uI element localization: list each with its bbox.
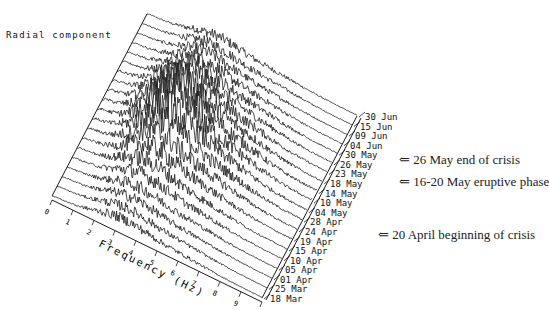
date-label: 26 May xyxy=(340,160,373,170)
date-label: 18 Mar xyxy=(270,294,303,304)
date-label: 14 May xyxy=(325,189,358,199)
annotation-beginning-of-crisis: ⇐ 20 April beginning of crisis xyxy=(378,227,535,243)
chart-title: Radial component xyxy=(6,30,112,40)
date-label: 15 Apr xyxy=(295,246,328,256)
date-label: 10 May xyxy=(320,198,353,208)
date-label: 01 Apr xyxy=(280,275,313,285)
annotation-end-of-crisis: ⇐ 26 May end of crisis xyxy=(399,152,520,168)
frequency-tick-label: 8 xyxy=(211,289,218,298)
date-label: 04 Jun xyxy=(350,141,383,151)
date-label: 30 May xyxy=(345,150,378,160)
frequency-tick-label: 2 xyxy=(85,228,92,237)
frequency-tick-label: 9 xyxy=(232,299,239,308)
date-label: 18 May xyxy=(330,179,363,189)
date-label: 23 May xyxy=(335,169,368,179)
date-label: 09 Jun xyxy=(355,131,388,141)
annotation-eruptive-phase: ⇐ 16-20 May eruptive phase xyxy=(399,174,549,190)
date-label: 05 Apr xyxy=(285,265,318,275)
date-label: 28 Apr xyxy=(310,217,343,227)
date-label: 04 May xyxy=(315,208,348,218)
date-label: 15 Jun xyxy=(360,122,393,132)
date-label: 10 Apr xyxy=(290,256,323,266)
date-label: 19 Apr xyxy=(300,237,333,247)
frequency-tick-label: 1 xyxy=(64,218,71,227)
date-label: 24 Apr xyxy=(305,227,338,237)
date-label: 25 Mar xyxy=(275,284,308,294)
date-label: 30 Jun xyxy=(365,112,398,122)
frequency-tick-label: 0 xyxy=(43,208,50,217)
